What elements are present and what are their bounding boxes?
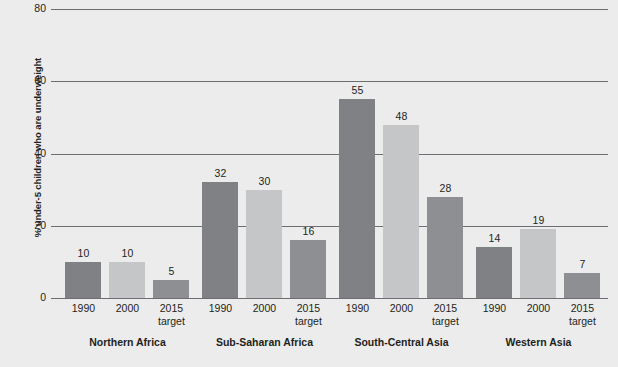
plot-area: 0204060801010532301655482814197 bbox=[60, 9, 608, 298]
x-tick-label: 2000 bbox=[520, 302, 556, 315]
bar-western-asia-1990 bbox=[476, 247, 512, 298]
bar-western-asia-2015-target bbox=[564, 273, 600, 298]
tick-dash-40 bbox=[51, 154, 60, 155]
bar-value-label: 5 bbox=[169, 265, 175, 277]
x-tick-year: 2000 bbox=[253, 302, 276, 314]
bar-value-label: 14 bbox=[489, 232, 501, 244]
bar-value-label: 7 bbox=[580, 258, 586, 270]
bar-south-central-asia-2015-target bbox=[427, 197, 463, 298]
tick-dash-0 bbox=[51, 298, 60, 299]
bar-value-label: 28 bbox=[440, 182, 452, 194]
x-tick-label: 1990 bbox=[476, 302, 512, 315]
bar-northern-africa-2000 bbox=[109, 262, 145, 298]
gridline-80 bbox=[60, 9, 608, 10]
y-tick-label-60: 60 bbox=[12, 74, 46, 86]
gridline-40 bbox=[60, 154, 608, 155]
x-tick-target: target bbox=[290, 315, 326, 328]
y-tick-label-20: 20 bbox=[12, 219, 46, 231]
tick-dash-80 bbox=[51, 9, 60, 10]
x-tick-label: 1990 bbox=[202, 302, 238, 315]
bar-value-label: 30 bbox=[259, 175, 271, 187]
x-tick-year: 2015 bbox=[434, 302, 457, 314]
bar-sub-saharan-africa-2015-target bbox=[290, 240, 326, 298]
x-tick-label: 2015target bbox=[290, 302, 326, 328]
bar-sub-saharan-africa-2000 bbox=[246, 190, 282, 298]
x-tick-year: 1990 bbox=[483, 302, 506, 314]
x-tick-year: 2015 bbox=[160, 302, 183, 314]
x-tick-label: 2000 bbox=[109, 302, 145, 315]
x-tick-year: 2015 bbox=[297, 302, 320, 314]
gridline-60 bbox=[60, 81, 608, 82]
group-label-south-central-asia: South-Central Asia bbox=[339, 336, 463, 348]
tick-dash-20 bbox=[51, 226, 60, 227]
x-tick-label: 1990 bbox=[65, 302, 101, 315]
bar-south-central-asia-1990 bbox=[339, 99, 375, 298]
bar-value-label: 48 bbox=[396, 110, 408, 122]
bar-value-label: 10 bbox=[78, 247, 90, 259]
x-axis-baseline bbox=[60, 298, 608, 299]
bar-chart: % under-5 children who are underweight 0… bbox=[0, 0, 618, 367]
y-tick-label-0: 0 bbox=[12, 291, 46, 303]
bar-sub-saharan-africa-1990 bbox=[202, 182, 238, 298]
x-tick-year: 2000 bbox=[527, 302, 550, 314]
group-label-western-asia: Western Asia bbox=[476, 336, 600, 348]
x-tick-year: 1990 bbox=[209, 302, 232, 314]
x-tick-label: 2000 bbox=[383, 302, 419, 315]
x-tick-label: 2015target bbox=[427, 302, 463, 328]
bar-south-central-asia-2000 bbox=[383, 125, 419, 298]
y-tick-label-40: 40 bbox=[12, 147, 46, 159]
gridline-20 bbox=[60, 226, 608, 227]
y-tick-label-80: 80 bbox=[12, 2, 46, 14]
x-tick-target: target bbox=[564, 315, 600, 328]
bar-value-label: 16 bbox=[303, 225, 315, 237]
bar-western-asia-2000 bbox=[520, 229, 556, 298]
bar-value-label: 32 bbox=[215, 167, 227, 179]
group-label-sub-saharan-africa: Sub-Saharan Africa bbox=[202, 336, 326, 348]
x-tick-year: 1990 bbox=[346, 302, 369, 314]
x-tick-label: 2000 bbox=[246, 302, 282, 315]
x-tick-year: 2000 bbox=[390, 302, 413, 314]
bar-value-label: 10 bbox=[122, 247, 134, 259]
bar-value-label: 19 bbox=[533, 214, 545, 226]
x-tick-target: target bbox=[427, 315, 463, 328]
bar-northern-africa-1990 bbox=[65, 262, 101, 298]
x-tick-label: 1990 bbox=[339, 302, 375, 315]
tick-dash-60 bbox=[51, 81, 60, 82]
x-tick-label: 2015target bbox=[153, 302, 189, 328]
bar-value-label: 55 bbox=[352, 84, 364, 96]
x-tick-year: 1990 bbox=[72, 302, 95, 314]
x-tick-year: 2000 bbox=[116, 302, 139, 314]
x-tick-target: target bbox=[153, 315, 189, 328]
bar-northern-africa-2015-target bbox=[153, 280, 189, 298]
x-tick-year: 2015 bbox=[571, 302, 594, 314]
x-tick-label: 2015target bbox=[564, 302, 600, 328]
group-label-northern-africa: Northern Africa bbox=[65, 336, 189, 348]
